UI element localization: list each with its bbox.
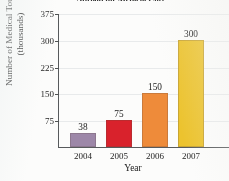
y-tick-mark [55,41,59,42]
y-tick-mark [55,68,59,69]
bar [142,93,168,147]
bar-group: 300 [178,24,204,147]
y-axis-title: Number of Medical Tourists (thousands) [4,0,28,98]
y-tick-label: 375 [41,9,55,19]
y-axis-title-line-1: Number of Medical Tourists [4,0,15,98]
bar [178,40,204,147]
y-tick-label: 75 [45,116,54,126]
chart-screenshot: Abroad for Medical Care Number of Medica… [0,0,229,181]
y-axis-title-line-2: (thousands) [15,0,26,98]
y-tick-mark [55,121,59,122]
bar-group: 38 [70,117,96,147]
x-tick-label: 2007 [174,151,208,161]
bar-value-label: 75 [114,109,123,119]
x-axis-title: Year [58,163,208,173]
x-tick-label: 2005 [102,151,136,161]
bar [106,120,132,147]
y-tick-mark [55,14,59,15]
plot-area: 75150225300375 3875150300 [58,14,229,148]
bar [70,133,96,147]
bar-group: 150 [142,77,168,147]
bar-value-label: 38 [78,122,87,132]
y-tick-label: 150 [41,89,55,99]
chart-title: Abroad for Medical Care [56,0,186,1]
y-axis-line [58,14,59,148]
bar-group: 75 [106,104,132,147]
y-tick-label: 225 [41,63,55,73]
x-axis-line [58,147,229,148]
bar-value-label: 150 [148,82,162,92]
y-tick-mark [55,94,59,95]
bar-value-label: 300 [184,29,198,39]
x-tick-label: 2006 [138,151,172,161]
x-tick-label: 2004 [66,151,100,161]
gridline [59,14,229,15]
y-tick-label: 300 [41,36,55,46]
